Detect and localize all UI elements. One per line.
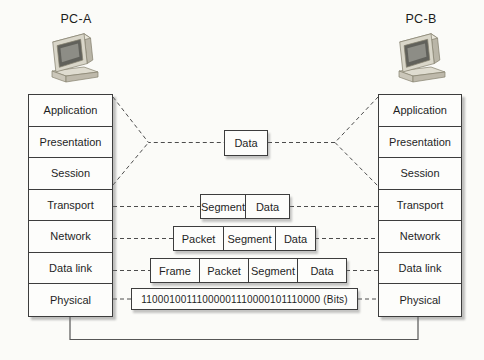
pc-a-layer-data-link: Data link	[29, 253, 112, 285]
pc-a-layer-presentation: Presentation	[29, 127, 112, 159]
osi-encapsulation-diagram: PC-A PC-B Applicati	[0, 0, 484, 360]
pdu-box-segment: Segment	[223, 226, 276, 251]
pc-b-layer-transport: Transport	[379, 190, 461, 222]
pc-a-layer-session: Session	[29, 158, 112, 190]
pdu-box-segment: Segment	[200, 194, 246, 219]
pc-a-layer-application: Application	[29, 95, 112, 127]
left-funnel-lower-line	[113, 143, 149, 186]
pc-b-layer-presentation: Presentation	[379, 127, 461, 159]
pdu-box-data: Data	[275, 226, 316, 251]
pc-b-layer-physical: Physical	[379, 284, 461, 316]
pc-a-layer-network: Network	[29, 221, 112, 253]
pc-a-desktop-computer-icon	[47, 25, 101, 85]
pdu-box-packet: Packet	[199, 258, 249, 283]
host-label-pc-a: PC-A	[45, 12, 107, 26]
pc-a-layer-transport: Transport	[29, 190, 112, 222]
presentation-pdu-row: Data	[224, 130, 268, 156]
osi-stack-pc-a: Application Presentation Session Transpo…	[28, 94, 113, 317]
right-funnel-lower-line	[335, 143, 378, 187]
network-pdu-row: Packet Segment Data	[173, 226, 316, 251]
pc-b-layer-data-link: Data link	[379, 253, 461, 285]
transport-pdu-row: Segment Data	[200, 194, 290, 219]
host-label-pc-b: PC-B	[390, 12, 452, 26]
datalink-pdu-row: Frame Packet Segment Data	[150, 258, 347, 283]
pc-b-layer-network: Network	[379, 221, 461, 253]
pc-a-layer-physical: Physical	[29, 284, 112, 316]
osi-stack-pc-b: Application Presentation Session Transpo…	[378, 94, 462, 317]
pc-b-layer-session: Session	[379, 158, 461, 190]
pdu-box-bits: 11000100111000001110000101110000 (Bits)	[131, 288, 358, 310]
left-funnel-upper-line	[113, 97, 224, 143]
physical-medium-line	[70, 316, 418, 340]
pdu-box-data: Data	[297, 258, 347, 283]
pdu-box-segment: Segment	[248, 258, 298, 283]
pc-b-layer-application: Application	[379, 95, 461, 127]
pdu-box-packet: Packet	[173, 226, 224, 251]
pdu-box-frame: Frame	[150, 258, 200, 283]
pc-b-desktop-computer-icon	[394, 25, 448, 85]
right-funnel-upper-line	[268, 97, 378, 143]
pdu-box-data: Data	[224, 130, 268, 156]
physical-pdu-row: 11000100111000001110000101110000 (Bits)	[131, 288, 358, 310]
pdu-box-data: Data	[245, 194, 290, 219]
